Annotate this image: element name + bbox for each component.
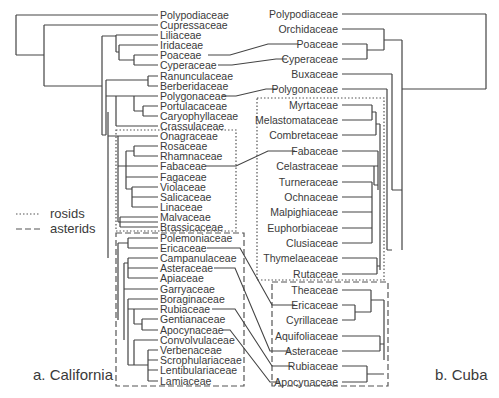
right-taxon-label: Ericaceae: [291, 299, 338, 311]
right-taxon-label: Aquifoliaceae: [275, 330, 338, 342]
panel-b-label: b. Cuba: [435, 366, 488, 383]
right-taxon-label: Polygonaceae: [271, 83, 338, 95]
legend-rosids-label: rosids: [50, 206, 85, 221]
right-taxon-label: Theaceae: [291, 284, 338, 296]
right-taxon-label: Orchidaceae: [278, 23, 338, 35]
right-taxa-labels: PolypodiaceaeOrchidaceaePoaceaeCyperacea…: [255, 8, 338, 388]
right-taxon-label: Celastraceae: [276, 160, 338, 172]
right-taxon-label: Malpighiaceae: [270, 206, 338, 218]
right-taxon-label: Combretaceae: [269, 129, 338, 141]
right-taxon-label: Euphorbiaceae: [267, 222, 338, 234]
right-taxon-label: Polypodiaceae: [269, 8, 338, 20]
right-taxon-label: Myrtaceae: [289, 99, 338, 111]
right-taxon-label: Turneraceae: [279, 176, 338, 188]
right-tree-branches: [342, 14, 486, 382]
right-taxon-label: Clusiaceae: [286, 237, 338, 249]
legend: rosids asterids: [16, 206, 96, 236]
tanglegram-figure: PolypodiaceaeCupressaceaeLiliaceaeIridac…: [0, 0, 499, 398]
right-taxon-label: Rubiaceae: [288, 360, 338, 372]
right-taxon-label: Buxaceae: [291, 68, 338, 80]
panel-a-label: a. California: [33, 366, 114, 383]
right-taxon-label: Melastomataceae: [255, 114, 338, 126]
right-taxon-label: Rutaceae: [293, 268, 338, 280]
right-taxon-label: Fabaceae: [291, 145, 338, 157]
right-taxon-label: Poaceae: [297, 38, 339, 50]
legend-asterids-label: asterids: [50, 221, 96, 236]
right-taxon-label: Apocynaceae: [274, 376, 338, 388]
left-taxon-label: Lamiaceae: [160, 375, 212, 387]
right-taxon-label: Asteraceae: [285, 345, 338, 357]
right-taxon-label: Ochnaceae: [284, 191, 338, 203]
right-taxon-label: Thymelaeaceae: [263, 252, 338, 264]
right-taxon-label: Cyperaceae: [281, 53, 338, 65]
right-taxon-label: Cyrillaceae: [286, 314, 338, 326]
left-tree-branches: [16, 15, 158, 381]
